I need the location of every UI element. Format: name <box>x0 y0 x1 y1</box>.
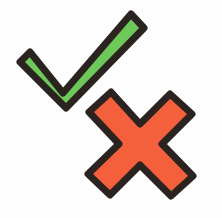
marks-canvas <box>0 0 222 218</box>
figure-root: illegible <box>0 0 222 218</box>
